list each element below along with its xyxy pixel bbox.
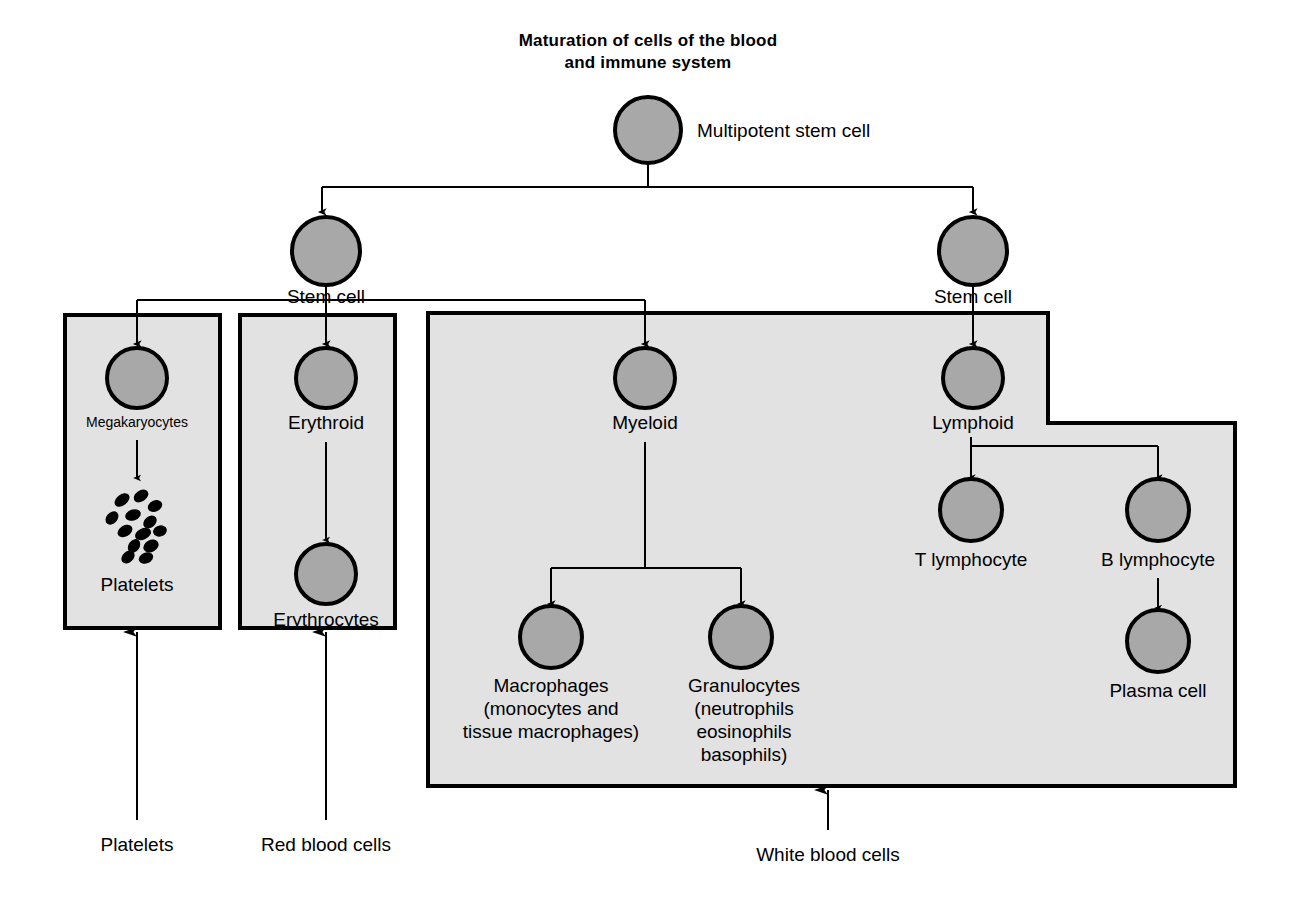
label-plasma-cell: Plasma cell bbox=[1109, 680, 1206, 701]
label-b-lymphocyte: B lymphocyte bbox=[1101, 549, 1215, 570]
label-multipotent-stem-cell: Multipotent stem cell bbox=[697, 120, 870, 141]
cell-myeloid[interactable] bbox=[615, 348, 675, 408]
cell-stem-cell-left[interactable] bbox=[292, 217, 360, 285]
cell-plasma-cell[interactable] bbox=[1127, 610, 1189, 672]
label-megakaryocytes: Megakaryocytes bbox=[86, 414, 188, 430]
cell-b-lymphocyte[interactable] bbox=[1127, 479, 1189, 541]
cell-lymphoid[interactable] bbox=[943, 348, 1003, 408]
label-macrophages-line3: tissue macrophages) bbox=[463, 721, 639, 742]
label-granulocytes-line3: eosinophils bbox=[696, 721, 791, 742]
cell-t-lymphocyte[interactable] bbox=[940, 479, 1002, 541]
cell-macrophage[interactable] bbox=[520, 606, 582, 668]
caption-red-blood-cells: Red blood cells bbox=[261, 834, 391, 855]
cell-granulocyte[interactable] bbox=[710, 606, 772, 668]
label-granulocytes-line2: (neutrophils bbox=[694, 698, 793, 719]
label-myeloid: Myeloid bbox=[612, 412, 677, 433]
caption-platelets: Platelets bbox=[101, 834, 174, 855]
label-macrophages-line2: (monocytes and bbox=[483, 698, 618, 719]
diagram-canvas: Maturation of cells of the blood and imm… bbox=[0, 0, 1297, 915]
label-platelets: Platelets bbox=[101, 574, 174, 595]
caption-white-blood-cells: White blood cells bbox=[756, 844, 900, 865]
cell-stem-cell-right[interactable] bbox=[939, 217, 1007, 285]
label-t-lymphocyte: T lymphocyte bbox=[915, 549, 1028, 570]
label-erythrocytes: Erythrocytes bbox=[273, 609, 379, 630]
diagram-title-line1: Maturation of cells of the blood bbox=[519, 31, 778, 50]
diagram-title-line2: and immune system bbox=[565, 53, 732, 72]
label-macrophages-line1: Macrophages bbox=[493, 675, 608, 696]
label-granulocytes-line1: Granulocytes bbox=[688, 675, 800, 696]
label-erythroid: Erythroid bbox=[288, 412, 364, 433]
label-stem-cell-right: Stem cell bbox=[934, 286, 1012, 307]
cell-multipotent-stem-cell[interactable] bbox=[615, 97, 681, 163]
label-granulocytes-line4: basophils) bbox=[701, 744, 788, 765]
label-lymphoid: Lymphoid bbox=[932, 412, 1014, 433]
label-stem-cell-left: Stem cell bbox=[287, 286, 365, 307]
cell-erythrocyte[interactable] bbox=[296, 544, 356, 604]
cell-megakaryocyte[interactable] bbox=[107, 348, 167, 408]
cell-erythroid[interactable] bbox=[296, 348, 356, 408]
